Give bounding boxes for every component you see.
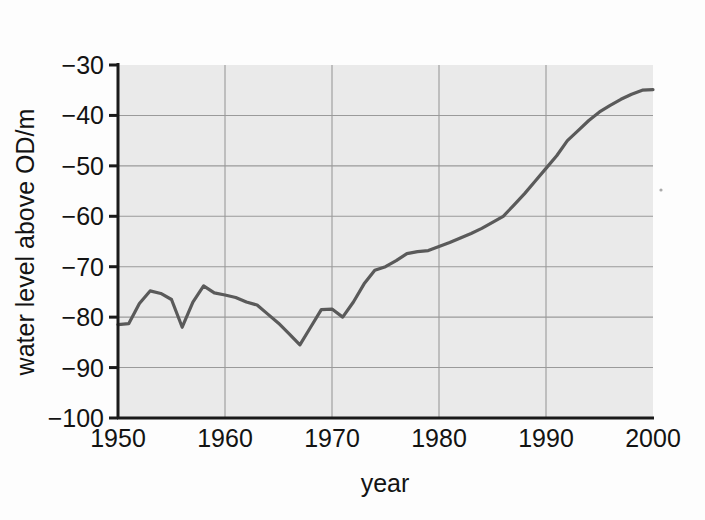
chart-figure: −30−40−50−60−70−80−90−100 19501960197019… <box>0 0 705 520</box>
x-tick-label: 1980 <box>411 424 467 452</box>
y-tick-labels: −30−40−50−60−70−80−90−100 <box>48 51 104 432</box>
x-axis-title: year <box>361 469 410 497</box>
y-tick-label: −50 <box>62 152 104 180</box>
x-tick-labels: 195019601970198019902000 <box>90 424 681 452</box>
y-tick-label: −30 <box>62 51 104 79</box>
plot-area-background <box>118 65 653 418</box>
x-tick-label: 1990 <box>518 424 574 452</box>
x-tick-label: 1960 <box>197 424 253 452</box>
y-tick-label: −70 <box>62 253 104 281</box>
y-tick-label: −90 <box>62 354 104 382</box>
y-tick-label: −60 <box>62 202 104 230</box>
y-axis-title: water level above OD/m <box>11 109 39 377</box>
scan-speck-icon <box>659 188 662 191</box>
y-tick-label: −80 <box>62 303 104 331</box>
x-tick-label: 1950 <box>90 424 146 452</box>
x-tick-label: 2000 <box>625 424 681 452</box>
line-chart: −30−40−50−60−70−80−90−100 19501960197019… <box>0 0 705 520</box>
y-tick-label: −40 <box>62 101 104 129</box>
x-tick-label: 1970 <box>304 424 360 452</box>
